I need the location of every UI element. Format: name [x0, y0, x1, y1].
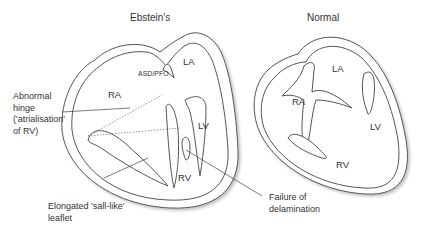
- normal-ra-label: RA: [292, 96, 305, 108]
- normal-la-label: LA: [332, 63, 344, 75]
- abnormal-hinge-annotation: Abnormal hinge ('atrialisation' of RV): [13, 91, 65, 137]
- failure-delamination-annotation: Failure of delamination: [269, 192, 320, 215]
- asd-pfo-label: ASD/PFO: [138, 68, 169, 80]
- ebstein-lv-label: LV: [198, 120, 209, 132]
- ebstein-rv-label: RV: [178, 172, 191, 184]
- normal-rv-label: RV: [336, 159, 349, 171]
- ebstein-heart: [62, 33, 238, 208]
- normal-title: Normal: [307, 12, 339, 24]
- elongated-leaflet-annotation: Elongated 'sall-like' leaflet: [48, 201, 124, 224]
- normal-heart: [254, 37, 407, 194]
- ebstein-la-label: LA: [183, 56, 195, 68]
- normal-lv-label: LV: [370, 121, 381, 133]
- ebstein-ra-label: RA: [108, 89, 121, 101]
- ebstein-title: Ebstein's: [130, 12, 170, 24]
